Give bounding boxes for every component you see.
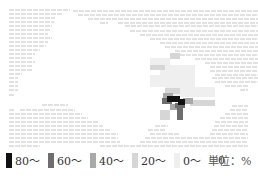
unit-label: 単位：% [208,152,251,168]
legend: 80～ 60～ 40～ 20～ 0～ 0 [6,151,233,169]
legend-swatch-40 [90,153,96,168]
legend-item-60: 60～ [48,152,82,168]
legend-label: 20～ [141,152,166,168]
legend-item-40: 40～ [90,152,124,168]
land-grid-lines [9,10,258,146]
legend-label: 60～ [57,152,82,168]
legend-label: 0～ [183,152,201,168]
legend-swatch-80 [6,153,12,168]
legend-item-0plus: 0～ [174,152,201,168]
legend-swatch-60 [48,153,54,168]
heatmap-map [0,0,258,148]
legend-label: 40～ [99,152,124,168]
legend-item-80: 80～ [6,152,40,168]
legend-swatch-20 [132,153,138,168]
legend-swatch-0plus [174,153,180,168]
legend-label: 80～ [15,152,40,168]
legend-item-20: 20～ [132,152,166,168]
light-cells [150,58,215,97]
